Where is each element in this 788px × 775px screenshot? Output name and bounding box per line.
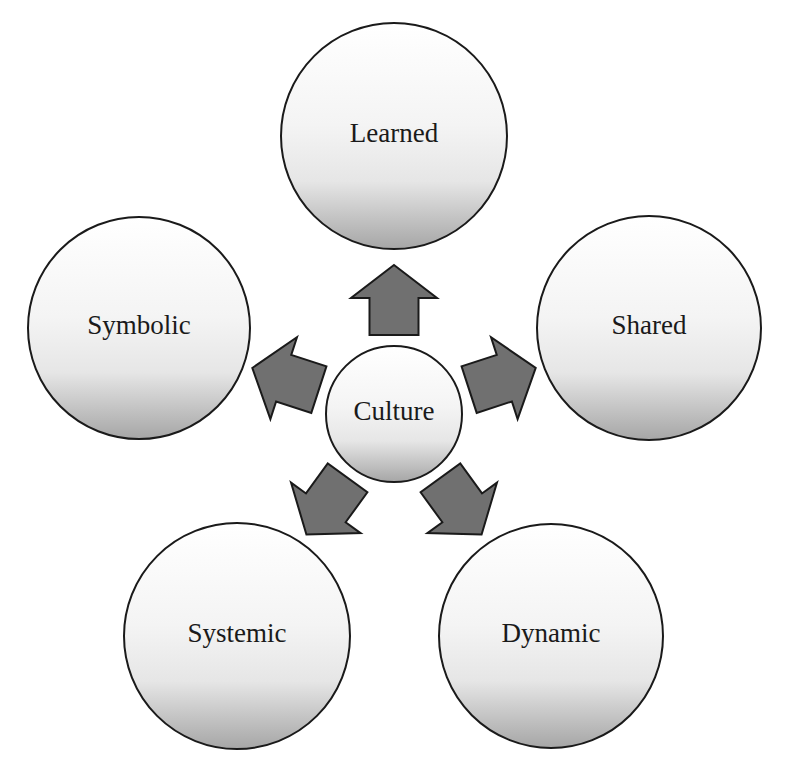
- node-learned: Learned: [281, 23, 507, 249]
- node-dynamic-label: Dynamic: [502, 618, 601, 648]
- node-dynamic: Dynamic: [439, 524, 663, 748]
- node-systemic: Systemic: [124, 523, 350, 749]
- arrow-to-learned-icon: [351, 265, 437, 335]
- node-culture-label: Culture: [354, 396, 435, 426]
- node-symbolic: Symbolic: [28, 217, 250, 439]
- arrow-to-symbolic-icon: [239, 327, 332, 430]
- node-culture: Culture: [326, 346, 462, 482]
- node-shared-label: Shared: [612, 310, 687, 340]
- culture-diagram: Learned Shared Dynamic Systemic Symbolic…: [0, 0, 788, 775]
- node-learned-label: Learned: [350, 118, 439, 148]
- node-symbolic-label: Symbolic: [87, 310, 191, 340]
- node-systemic-label: Systemic: [188, 618, 287, 648]
- node-shared: Shared: [537, 216, 761, 440]
- arrow-to-shared-icon: [456, 327, 549, 430]
